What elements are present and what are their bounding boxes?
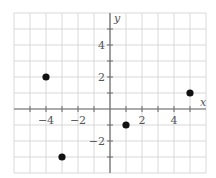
data-point bbox=[122, 121, 129, 128]
y-axis-label: y bbox=[113, 12, 121, 25]
x-tick-label: −2 bbox=[70, 114, 86, 127]
scatter-chart: −4−224−224 x y bbox=[0, 0, 216, 178]
y-tick-label: −2 bbox=[89, 135, 105, 148]
data-point bbox=[42, 73, 49, 80]
y-tick-label: 2 bbox=[98, 71, 105, 84]
data-point bbox=[186, 89, 193, 96]
x-tick-label: 4 bbox=[171, 114, 178, 127]
data-point bbox=[58, 153, 65, 160]
y-tick-label: 4 bbox=[98, 39, 105, 52]
x-tick-label: −4 bbox=[38, 114, 54, 127]
x-axis-label: x bbox=[200, 96, 207, 109]
x-tick-label: 2 bbox=[139, 114, 146, 127]
